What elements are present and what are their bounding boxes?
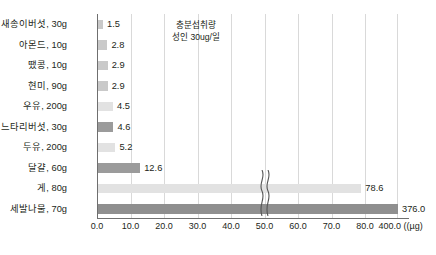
x-tick-label: 70.0 [323, 221, 341, 231]
bar [98, 81, 108, 91]
category-label: 땠콩, 10g [0, 55, 67, 76]
annotation-line-2: 성인 30ug/일 [148, 32, 244, 44]
category-label: 두유, 200g [0, 137, 67, 158]
category-label: 아몬드, 10g [0, 35, 67, 56]
category-label: 현미, 90g [0, 76, 67, 97]
category-label: 세발나물, 70g [0, 199, 67, 220]
bar-value-label: 78.6 [365, 178, 383, 199]
bar-row: 땠콩, 10g2.9 [97, 55, 409, 76]
bar-value-label: 4.5 [117, 96, 130, 117]
x-tick-label: 10.0 [122, 221, 140, 231]
bar [98, 143, 115, 153]
bar-row: 아몬드, 10g2.8 [97, 35, 409, 56]
x-tick-label: 40.0 [222, 221, 240, 231]
x-tick-label: 30.0 [189, 221, 207, 231]
bar [98, 122, 113, 132]
bar-value-label: 5.2 [119, 137, 132, 158]
bar-row: 우유, 200g4.5 [97, 96, 409, 117]
category-label: 새송이버섯, 30g [0, 14, 67, 35]
x-tick-label: 20.0 [155, 221, 173, 231]
bar-value-label: 2.9 [112, 76, 125, 97]
bar-value-label: 2.8 [111, 35, 124, 56]
annotation-line-1: 충분섭취량 [148, 20, 244, 32]
category-label: 게, 80g [0, 178, 67, 199]
bar [98, 184, 361, 194]
bar [98, 163, 140, 173]
bar-row: 달걀, 60g12.6 [97, 158, 409, 179]
bar-row: 두유, 200g5.2 [97, 137, 409, 158]
category-label: 느타리버섯, 30g [0, 117, 67, 138]
x-tick-label: 50.0 [256, 221, 274, 231]
bar-value-label: 4.6 [117, 117, 130, 138]
bar-row: 게, 80g78.6 [97, 178, 409, 199]
bar-row: 새송이버섯, 30g1.5 [97, 14, 409, 35]
x-tick-label: 400.0 ((µg) [378, 221, 422, 231]
bar [98, 204, 398, 214]
bar [98, 40, 107, 50]
category-label: 우유, 200g [0, 96, 67, 117]
bar-row: 느타리버섯, 30g4.6 [97, 117, 409, 138]
x-tick-label: 80.0 [356, 221, 374, 231]
bar [98, 20, 103, 30]
bar-value-label: 376.0 [402, 199, 425, 220]
bar-value-label: 12.6 [144, 158, 162, 179]
adequate-intake-annotation: 충분섭취량 성인 30ug/일 [148, 20, 244, 43]
bar-row: 세발나물, 70g376.0 [97, 199, 409, 220]
bar-value-label: 2.9 [112, 55, 125, 76]
bar [98, 102, 113, 112]
bar-chart: 새송이버섯, 30g1.5아몬드, 10g2.8땠콩, 10g2.9현미, 90… [0, 0, 436, 255]
bar-row: 현미, 90g2.9 [97, 76, 409, 97]
x-tick-label: 60.0 [289, 221, 307, 231]
bar [98, 61, 108, 71]
x-tick-label: 0.0 [91, 221, 104, 231]
category-label: 달걀, 60g [0, 158, 67, 179]
plot-area: 새송이버섯, 30g1.5아몬드, 10g2.8땠콩, 10g2.9현미, 90… [97, 14, 409, 219]
bar-value-label: 1.5 [107, 14, 120, 35]
